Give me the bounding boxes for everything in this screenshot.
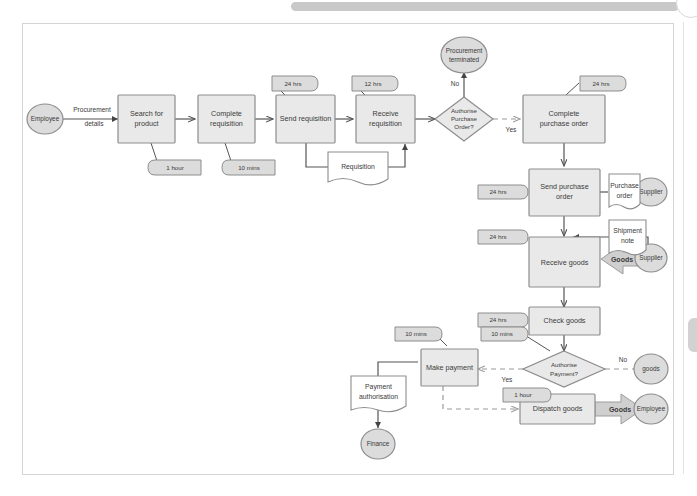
edge-label-no-payment: No bbox=[619, 356, 628, 363]
svg-text:Shipment: Shipment bbox=[613, 227, 642, 235]
svg-text:Employee: Employee bbox=[637, 405, 666, 413]
svg-text:1 hour: 1 hour bbox=[166, 164, 184, 171]
svg-text:Complete: Complete bbox=[211, 109, 242, 118]
svg-text:product: product bbox=[135, 119, 159, 128]
document-requisition[interactable]: Requisition bbox=[328, 152, 388, 185]
svg-text:terminated: terminated bbox=[449, 56, 480, 63]
task-send-purchase-order[interactable]: Send purchase order bbox=[529, 169, 600, 216]
screenshot-viewport: Search for product Complete requisition … bbox=[0, 0, 697, 496]
task-search-for-product[interactable]: Search for product bbox=[118, 95, 175, 143]
circular-handle-icon[interactable] bbox=[676, 0, 697, 18]
annotation-receive-goods[interactable]: 24 hrs bbox=[478, 230, 528, 244]
svg-text:24 hrs: 24 hrs bbox=[284, 80, 301, 87]
task-label: Search for bbox=[130, 109, 164, 118]
svg-text:purchase order: purchase order bbox=[540, 119, 589, 128]
edge-label-goods-outbound: Goods bbox=[609, 406, 631, 413]
svg-text:Payment?: Payment? bbox=[550, 370, 578, 377]
svg-text:Check goods: Check goods bbox=[544, 316, 586, 325]
process-flow-diagram: Search for product Complete requisition … bbox=[23, 24, 673, 474]
svg-text:Make payment: Make payment bbox=[426, 363, 473, 372]
edge-label-yes-payment: Yes bbox=[502, 376, 513, 383]
svg-text:24 hrs: 24 hrs bbox=[489, 233, 506, 240]
document-purchase-order[interactable]: Purchase order bbox=[609, 174, 640, 209]
svg-text:24 hrs: 24 hrs bbox=[489, 188, 506, 195]
svg-text:24 hrs: 24 hrs bbox=[489, 316, 506, 323]
svg-text:note: note bbox=[621, 237, 634, 244]
svg-text:Purchase: Purchase bbox=[610, 182, 639, 189]
task-complete-purchase-order[interactable]: Complete purchase order bbox=[523, 95, 605, 143]
svg-text:goods: goods bbox=[642, 365, 659, 373]
edge-label-procurement-details: Procurement bbox=[73, 106, 111, 113]
edge-label-no-purchase: No bbox=[451, 80, 460, 87]
document-shipment-note[interactable]: Shipment note bbox=[609, 220, 646, 255]
svg-text:12 hrs: 12 hrs bbox=[364, 80, 381, 87]
task-send-requisition[interactable]: Send requisition bbox=[276, 95, 335, 143]
svg-text:10 mins: 10 mins bbox=[238, 164, 260, 171]
svg-text:Dispatch goods: Dispatch goods bbox=[533, 404, 583, 413]
task-complete-requisition[interactable]: Complete requisition bbox=[198, 95, 255, 143]
svg-text:Finance: Finance bbox=[367, 440, 390, 447]
svg-text:Purchase: Purchase bbox=[451, 115, 478, 122]
svg-text:Receive goods: Receive goods bbox=[541, 258, 589, 267]
svg-text:Requisition: Requisition bbox=[341, 163, 375, 171]
role-employee-end[interactable]: Employee bbox=[634, 394, 668, 424]
task-receive-requisition[interactable]: Receive requisition bbox=[356, 95, 415, 143]
svg-text:10 mins: 10 mins bbox=[405, 330, 427, 337]
annotation-receive-requisition[interactable]: 12 hrs bbox=[352, 76, 398, 91]
svg-text:Send purchase: Send purchase bbox=[540, 182, 588, 191]
svg-text:1 hour: 1 hour bbox=[514, 391, 532, 398]
svg-text:Receive: Receive bbox=[373, 109, 399, 118]
svg-text:Payment: Payment bbox=[365, 383, 392, 391]
svg-text:authorisation: authorisation bbox=[359, 393, 398, 400]
annotation-dispatch-goods[interactable]: 1 hour bbox=[503, 388, 551, 402]
role-procurement-terminated[interactable]: Procurement terminated bbox=[441, 37, 487, 73]
annotation-check-goods[interactable]: 24 hrs bbox=[478, 313, 528, 327]
annotation-send-requisition[interactable]: 24 hrs bbox=[272, 76, 318, 91]
svg-text:Supplier: Supplier bbox=[639, 254, 663, 262]
svg-text:Procurement: Procurement bbox=[446, 47, 483, 54]
svg-text:Supplier: Supplier bbox=[639, 188, 663, 196]
task-make-payment[interactable]: Make payment bbox=[421, 349, 478, 386]
edge-label-yes-purchase: Yes bbox=[506, 126, 517, 133]
svg-text:Authorise: Authorise bbox=[551, 361, 578, 368]
svg-text:order: order bbox=[556, 192, 573, 201]
task-check-goods[interactable]: Check goods bbox=[529, 307, 600, 335]
role-finance[interactable]: Finance bbox=[361, 429, 395, 459]
document-payment-authorisation[interactable]: Payment authorisation bbox=[351, 376, 406, 412]
annotation-authorise-payment[interactable]: 10 mins bbox=[481, 327, 528, 341]
goods-flow-arrows bbox=[595, 244, 646, 424]
svg-text:10 mins: 10 mins bbox=[491, 330, 513, 337]
vertical-divider bbox=[683, 22, 684, 474]
svg-text:Send requisition: Send requisition bbox=[280, 114, 332, 123]
diagram-canvas: Search for product Complete requisition … bbox=[22, 23, 674, 475]
edge-label-goods-inbound: Goods bbox=[611, 256, 633, 263]
side-tab[interactable] bbox=[688, 318, 697, 352]
role-goods-return[interactable]: goods bbox=[634, 354, 668, 384]
svg-text:requisition: requisition bbox=[369, 119, 402, 128]
task-receive-goods[interactable]: Receive goods bbox=[529, 237, 600, 287]
annotation-complete-requisition[interactable]: 10 mins bbox=[222, 160, 275, 175]
annotation-complete-purchase-order[interactable]: 24 hrs bbox=[580, 76, 626, 91]
decision-authorise-payment[interactable]: Authorise Payment? bbox=[523, 351, 605, 387]
svg-text:24 hrs: 24 hrs bbox=[592, 80, 609, 87]
decision-authorise-purchase-order[interactable]: Authorise Purchase Order? bbox=[435, 97, 493, 141]
svg-text:requisition: requisition bbox=[210, 119, 243, 128]
role-employee-start[interactable]: Employee bbox=[27, 104, 63, 134]
svg-text:details: details bbox=[84, 120, 104, 127]
horizontal-scrollbar[interactable] bbox=[291, 2, 679, 11]
annotation-make-payment[interactable]: 10 mins bbox=[395, 327, 442, 341]
svg-text:Complete: Complete bbox=[549, 109, 580, 118]
annotation-search-for-product[interactable]: 1 hour bbox=[148, 160, 201, 175]
task-nodes: Search for product Complete requisition … bbox=[118, 95, 605, 424]
svg-text:Order?: Order? bbox=[454, 123, 474, 130]
svg-text:Employee: Employee bbox=[31, 115, 60, 123]
svg-text:Authorise: Authorise bbox=[451, 107, 478, 114]
svg-text:order: order bbox=[617, 192, 634, 199]
annotation-send-purchase-order[interactable]: 24 hrs bbox=[478, 185, 528, 199]
